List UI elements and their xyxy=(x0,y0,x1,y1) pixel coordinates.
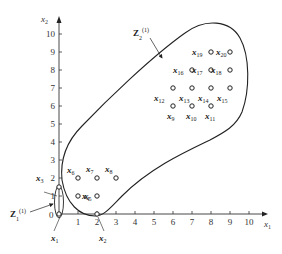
data-point-x13: x13 xyxy=(178,86,194,104)
y-tick-label: 4 xyxy=(51,137,56,147)
data-point-x12: x12 xyxy=(153,86,175,104)
point-marker-icon xyxy=(209,50,213,54)
point-marker-icon xyxy=(95,194,99,198)
point-marker-icon xyxy=(209,104,213,108)
x-tick-label: 4 xyxy=(133,217,138,227)
data-point-x11: x11 xyxy=(204,104,215,122)
data-point-x15: x15 xyxy=(216,86,232,104)
point-label: x10 xyxy=(185,111,197,122)
point-label: x20 xyxy=(215,47,227,58)
cluster-z2-pointer-arrow-icon xyxy=(150,38,162,58)
y-tick-label: 2 xyxy=(51,173,56,183)
point-marker-icon xyxy=(228,68,232,72)
origin-label: 0 xyxy=(49,210,54,220)
data-point-x16: x16 xyxy=(172,65,194,76)
point-label: x13 xyxy=(178,93,190,104)
y-axis-label: x2 xyxy=(40,14,48,25)
cluster-diagram: 12345678910 12345678910 x1 x2 0 x1x2x3x4… xyxy=(0,0,282,254)
point-marker-icon xyxy=(57,212,61,216)
point-label: x11 xyxy=(204,111,215,122)
x-tick-label: 5 xyxy=(152,217,157,227)
data-point-x19: x19 xyxy=(191,47,213,58)
data-point-x8: x8 xyxy=(104,164,118,180)
y-tick-label: 9 xyxy=(51,47,56,57)
x-axis-label: x1 xyxy=(263,219,271,230)
y-tick-label: 8 xyxy=(51,65,56,75)
point-label: x16 xyxy=(172,65,184,76)
point-label: x9 xyxy=(166,111,175,122)
y-axis-ticks: 12345678910 xyxy=(46,29,62,201)
point-marker-icon xyxy=(95,176,99,180)
point-label: x5 xyxy=(83,191,92,202)
point-marker-icon xyxy=(209,86,213,90)
x1-leader-line xyxy=(54,217,60,231)
data-point-x3: x3 xyxy=(35,173,61,189)
data-point-x18: x18 xyxy=(210,65,232,76)
y-tick-label: 3 xyxy=(51,155,56,165)
point-label: x12 xyxy=(153,93,165,104)
y-tick-label: 7 xyxy=(51,83,56,93)
data-point-x10: x10 xyxy=(185,104,197,122)
y-axis-arrow-icon xyxy=(57,16,62,23)
data-point-x7: x7 xyxy=(85,164,99,180)
x-axis-arrow-icon xyxy=(262,212,268,217)
data-point-x5: x5 xyxy=(83,191,99,202)
point-marker-icon xyxy=(228,86,232,90)
point-label: x17 xyxy=(191,65,203,76)
point-marker-icon xyxy=(171,104,175,108)
point-label: x8 xyxy=(104,164,113,175)
point-label: x14 xyxy=(197,93,209,104)
point-marker-icon xyxy=(171,86,175,90)
y-tick-label: 10 xyxy=(46,29,56,39)
data-point-x20: x20 xyxy=(215,47,232,58)
y-tick-label: 6 xyxy=(51,101,56,111)
point-marker-icon xyxy=(190,104,194,108)
point-marker-icon xyxy=(190,86,194,90)
x-tick-label: 9 xyxy=(228,217,233,227)
data-point-x2: x2 xyxy=(95,212,107,244)
x-tick-label: 6 xyxy=(171,217,176,227)
cluster-z2-label: Z2(1) xyxy=(133,27,149,41)
x-tick-label: 3 xyxy=(114,217,119,227)
point-label: x3 xyxy=(35,173,44,184)
x-tick-label: 8 xyxy=(209,217,214,227)
point-marker-icon xyxy=(228,50,232,54)
point-marker-icon xyxy=(114,176,118,180)
point-label: x7 xyxy=(85,164,94,175)
data-point-x17: x17 xyxy=(191,65,213,76)
point-marker-icon xyxy=(95,212,99,216)
x-tick-label: 7 xyxy=(190,217,195,227)
data-point-x9: x9 xyxy=(166,104,175,122)
x-tick-label: 1 xyxy=(76,217,81,227)
point-label: x15 xyxy=(216,93,228,104)
data-point-x14: x14 xyxy=(197,86,213,104)
point-marker-icon xyxy=(76,194,80,198)
point-label: x2 xyxy=(98,233,107,244)
point-label: x19 xyxy=(191,47,203,58)
y-tick-label: 5 xyxy=(51,119,56,129)
point-marker-icon xyxy=(76,176,80,180)
point-label: x18 xyxy=(210,65,222,76)
point-label: x6 xyxy=(66,165,75,176)
x-tick-label: 10 xyxy=(245,217,255,227)
point-marker-icon xyxy=(57,185,61,189)
data-point-x6: x6 xyxy=(66,165,80,180)
cluster-z1-label: Z1(1) xyxy=(10,208,26,222)
point-label: x1 xyxy=(50,233,59,244)
